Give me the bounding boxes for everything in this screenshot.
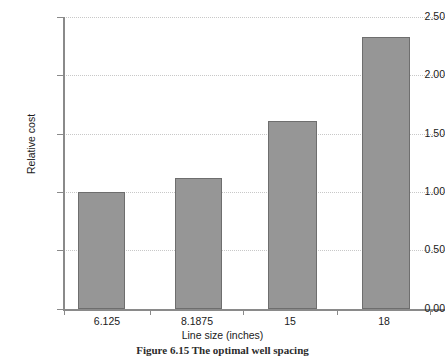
y-tick-mark-0-50 bbox=[57, 250, 63, 251]
x-axis-title: Line size (inches) bbox=[0, 329, 445, 341]
bar-18[interactable] bbox=[362, 37, 410, 309]
y-tick-mark-1-50 bbox=[57, 134, 63, 135]
x-tick-mark-2 bbox=[243, 310, 244, 315]
plot-area bbox=[64, 17, 421, 309]
x-tick-label-6-125: 6.125 bbox=[62, 315, 152, 327]
bar-6-125[interactable] bbox=[78, 192, 125, 309]
y-tick-mark-2-00 bbox=[57, 75, 63, 76]
y-tick-mark-1-00 bbox=[57, 192, 63, 193]
x-tick-label-8-1875: 8.1875 bbox=[152, 315, 242, 327]
y-tick-mark-0-00 bbox=[57, 309, 63, 310]
y-axis-title: Relative cost bbox=[25, 99, 37, 189]
x-tick-mark-3 bbox=[337, 310, 338, 315]
x-tick-label-18: 18 bbox=[339, 315, 429, 327]
y-tick-mark-2-50 bbox=[57, 17, 63, 18]
x-tick-mark-4 bbox=[430, 310, 431, 315]
x-axis-line bbox=[63, 309, 445, 311]
bar-15[interactable] bbox=[268, 121, 317, 309]
bar-8-1875[interactable] bbox=[175, 178, 222, 309]
x-tick-label-15: 15 bbox=[245, 315, 335, 327]
figure-caption: Figure 6.15 The optimal well spacing bbox=[0, 344, 445, 357]
